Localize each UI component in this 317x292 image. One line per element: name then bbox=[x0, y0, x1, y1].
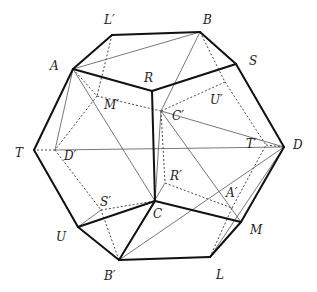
diagonal-line-Bp-D bbox=[119, 147, 284, 260]
visible-edge-M-L bbox=[210, 222, 241, 257]
visible-edge-T-A bbox=[34, 69, 73, 150]
label-D-prime: D′ bbox=[64, 150, 76, 162]
visible-edge-D-M bbox=[241, 147, 284, 222]
visible-edge-B-S bbox=[200, 32, 236, 64]
label-T-prime: T′ bbox=[246, 138, 257, 150]
label-R: R bbox=[144, 72, 153, 84]
visible-edge-Lp-B bbox=[112, 32, 200, 35]
diagonal-line-A-B bbox=[73, 32, 200, 69]
label-B-prime: B′ bbox=[104, 270, 116, 282]
label-D: D bbox=[293, 139, 303, 151]
label-M-prime: M′ bbox=[104, 99, 119, 111]
label-L-prime: L′ bbox=[104, 14, 115, 26]
visible-edge-A-Lp bbox=[73, 35, 112, 69]
label-C: C bbox=[153, 208, 162, 220]
hidden-edge-Dp-Sp bbox=[55, 150, 101, 210]
hidden-edge-Lp-Mp bbox=[97, 35, 112, 96]
visible-edge-L-Bp bbox=[119, 257, 210, 260]
visible-edge-C-Bp bbox=[119, 201, 155, 260]
visible-edge-R-C bbox=[152, 91, 155, 201]
diagonal-line-B-Cp bbox=[161, 32, 200, 111]
label-R-prime: R′ bbox=[170, 170, 182, 182]
label-A-prime: A′ bbox=[226, 187, 237, 199]
label-L: L bbox=[216, 269, 224, 281]
label-S: S bbox=[249, 55, 257, 67]
label-B: B bbox=[203, 14, 212, 26]
dodecahedron-diagram: L′ B A S R M′ U′ C′ T D′ T′ D R′ A′ S′ C… bbox=[0, 0, 317, 292]
label-A: A bbox=[50, 60, 59, 72]
label-C-prime: C′ bbox=[172, 110, 184, 122]
label-U: U bbox=[56, 231, 66, 243]
hidden-edge-Cp-Rp bbox=[161, 111, 165, 183]
visible-edge-C-U bbox=[78, 201, 155, 227]
label-M: M bbox=[250, 224, 262, 236]
diagonal-line-L-D bbox=[210, 147, 284, 257]
label-U-prime: U′ bbox=[210, 94, 223, 106]
label-T: T bbox=[15, 147, 23, 159]
diagonal-line-Sp-U bbox=[78, 210, 101, 227]
diagonal-line-C-Cp bbox=[155, 111, 161, 201]
visible-edge-S-D bbox=[236, 64, 284, 147]
dodecahedron-drawing bbox=[0, 0, 317, 292]
label-S-prime: S′ bbox=[100, 196, 111, 208]
visible-edge-R-S bbox=[152, 64, 236, 91]
